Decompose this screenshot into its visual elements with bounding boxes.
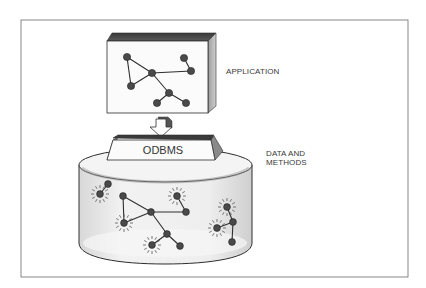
graph-node [105,181,112,188]
odbms-label: ODBMS [113,144,213,156]
graph-node [148,69,155,76]
graph-node [177,243,184,250]
database-cylinder [79,148,252,264]
graph-node [120,193,127,200]
data-label-line2: METHODS [266,158,307,167]
graph-node [180,54,187,61]
graph-node [127,82,134,89]
graph-node [214,225,221,232]
graph-node [182,99,189,106]
graph-node [165,89,172,96]
graph-node [97,191,104,198]
application-label: APPLICATION [226,67,279,76]
graph-node [229,239,236,246]
data-and-methods-label: DATA AND METHODS [266,149,307,167]
data-label-line1: DATA AND [266,149,307,158]
graph-node [153,99,160,106]
graph-node [174,193,181,200]
graph-node [121,220,128,227]
graph-node [123,53,130,60]
odbms-diagram [0,0,426,288]
graph-node [148,209,155,216]
graph-node [230,219,237,226]
graph-node [149,242,156,249]
graph-node [183,209,190,216]
application-box [107,33,216,113]
application-box-side [208,33,216,113]
graph-node [187,67,194,74]
application-box-top [107,33,216,41]
graph-node [224,204,231,211]
graph-node [164,231,171,238]
